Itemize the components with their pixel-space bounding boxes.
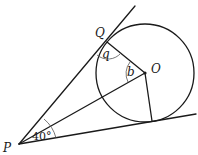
label-angle-b: b (127, 65, 135, 79)
label-P: P (2, 141, 12, 155)
tangent-line-upper (19, 6, 135, 144)
label-Q: Q (95, 26, 105, 40)
label-O: O (151, 62, 161, 76)
radius-OQ (107, 42, 145, 73)
tangent-circle-diagram: Q O P q b 40° (0, 0, 198, 155)
radius-OT (145, 73, 152, 121)
label-angle-q: q (102, 47, 110, 61)
label-angle-40: 40° (32, 130, 52, 143)
centre-point (143, 71, 146, 74)
